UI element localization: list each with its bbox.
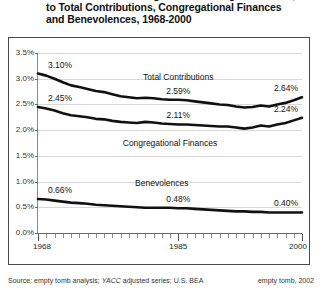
- y-tick-label: 0.5%: [16, 203, 34, 211]
- footer-source-note: Source: empty tomb analysis; YACC adjust…: [8, 276, 203, 285]
- x-tick-minor: [211, 234, 212, 238]
- x-tick-major: [38, 234, 39, 241]
- x-tick-label: 2000: [289, 242, 307, 251]
- x-tick-minor: [55, 234, 56, 238]
- footer: Source: empty tomb analysis; YACC adjust…: [0, 276, 326, 290]
- x-tick-minor: [286, 234, 287, 238]
- x-tick-minor: [195, 234, 196, 238]
- x-tick-minor: [104, 234, 105, 238]
- series-name-label: Benevolences: [135, 179, 188, 188]
- x-tick-minor: [96, 234, 97, 238]
- x-tick-minor: [269, 234, 270, 238]
- y-tick-label: 2.5%: [16, 100, 34, 108]
- series-name-label: Total Contributions: [143, 73, 213, 82]
- x-tick-minor: [236, 234, 237, 238]
- x-tick-minor: [294, 234, 295, 238]
- x-tick-minor: [187, 234, 188, 238]
- y-tick-label: 1.0%: [16, 178, 34, 186]
- x-tick-minor: [203, 234, 204, 238]
- x-tick-minor: [154, 234, 155, 238]
- chart-title: Church Member Giving as a Percentage of …: [0, 0, 326, 36]
- y-tick-label: 3.5%: [16, 49, 34, 57]
- x-tick-minor: [220, 234, 221, 238]
- y-tick-label: 0.0%: [16, 229, 34, 237]
- plot-area: 0.0%0.5%1.0%1.5%2.0%2.5%3.0%3.5% 1968198…: [38, 53, 302, 233]
- x-tick-major: [178, 234, 179, 241]
- chart-frame: 0.0%0.5%1.0%1.5%2.0%2.5%3.0%3.5% 1968198…: [8, 37, 310, 265]
- x-tick-minor: [88, 234, 89, 238]
- x-tick-label: 1985: [169, 242, 187, 251]
- y-tick-label: 3.0%: [16, 75, 34, 83]
- footer-source-suffix: adjusted series; U.S. BEA: [121, 277, 203, 284]
- x-tick-minor: [228, 234, 229, 238]
- x-tick-minor: [112, 234, 113, 238]
- data-point-label: 2.11%: [167, 111, 190, 120]
- y-tick-label: 1.5%: [16, 152, 34, 160]
- x-tick-major: [302, 234, 303, 241]
- footer-source-italic: YACC: [102, 277, 121, 284]
- series-name-label: Congregational Finances: [123, 139, 218, 148]
- x-tick-minor: [162, 234, 163, 238]
- x-tick-label: 1968: [33, 242, 51, 251]
- data-point-label: 0.48%: [166, 195, 190, 204]
- data-point-label: 3.10%: [48, 61, 72, 70]
- data-point-label: 0.40%: [274, 199, 298, 208]
- x-tick-minor: [277, 234, 278, 238]
- x-tick-minor: [46, 234, 47, 238]
- data-point-label: 2.24%: [274, 105, 298, 114]
- x-tick-minor: [121, 234, 122, 238]
- data-point-label: 2.64%: [274, 84, 298, 93]
- y-tick-label: 2.0%: [16, 126, 34, 134]
- x-tick-minor: [63, 234, 64, 238]
- footer-credit: empty tomb, 2002: [258, 276, 314, 285]
- x-tick-minor: [253, 234, 254, 238]
- x-tick-minor: [145, 234, 146, 238]
- data-point-label: 2.45%: [48, 94, 72, 103]
- x-tick-minor: [71, 234, 72, 238]
- data-point-label: 2.59%: [166, 87, 190, 96]
- title-line-2: to Total Contributions, Congregational F…: [46, 1, 281, 13]
- x-tick-minor: [129, 234, 130, 238]
- x-tick-minor: [170, 234, 171, 238]
- x-tick-minor: [137, 234, 138, 238]
- title-line-3: and Benevolences, 1968-2000: [46, 13, 192, 25]
- x-tick-minor: [244, 234, 245, 238]
- footer-source-prefix: Source: empty tomb analysis;: [8, 277, 102, 284]
- data-point-label: 0.66%: [48, 186, 72, 195]
- x-tick-minor: [261, 234, 262, 238]
- x-tick-minor: [79, 234, 80, 238]
